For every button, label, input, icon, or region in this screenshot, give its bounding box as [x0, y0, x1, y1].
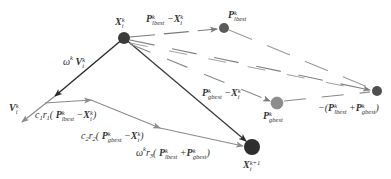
- label-v: V: [75, 56, 82, 67]
- dashed-plbest-to-negsum: [229, 30, 370, 88]
- label-sub: i: [180, 20, 183, 26]
- x-next-node: [244, 139, 260, 155]
- label-open: (: [96, 130, 99, 141]
- label-open: (: [50, 109, 53, 120]
- label-close: ): [93, 109, 96, 120]
- label-close: ): [206, 147, 209, 158]
- label-omega: ω: [63, 56, 70, 67]
- dashed-to-pgbest: [130, 44, 270, 101]
- label-sub: gbest: [108, 137, 122, 143]
- label-p-gbest: Pkgbest: [263, 111, 283, 123]
- dashed-to-plbest: [130, 29, 217, 37]
- label-neg-sum: −(Pklbest +Pkgbest): [318, 103, 379, 115]
- label-sub: gbest: [269, 117, 283, 123]
- dashed-x-to-negsum-1: [130, 40, 370, 90]
- label-omega: ω: [136, 147, 143, 158]
- label-x-current: Xki: [115, 17, 125, 29]
- label-sub: lbest: [62, 116, 74, 122]
- label-v-current: Vki: [9, 103, 19, 115]
- label-sub: lbest: [165, 154, 177, 160]
- label-sub: i: [16, 109, 19, 115]
- label-sub: gbest: [362, 109, 376, 115]
- x-current-node: [118, 32, 130, 44]
- label-sub: i: [122, 23, 125, 29]
- label-sub: gbest: [193, 154, 207, 160]
- label-op: −: [167, 13, 174, 24]
- third-component-arrow: [160, 128, 243, 146]
- label-pgbest-minus-x: Pkgbest −Xki: [202, 88, 241, 100]
- label-sub: lbest: [152, 20, 164, 26]
- label-base: X: [243, 159, 250, 170]
- label-x: X: [83, 109, 90, 120]
- label-inertia: ωk Vki: [63, 55, 85, 69]
- label-third: ωkr3( Pklbest +Pkgbest): [136, 146, 210, 160]
- label-close: ): [140, 130, 143, 141]
- label-x-next: Xk+1i: [243, 160, 260, 172]
- p-gbest-node: [271, 97, 283, 109]
- label-x: X: [231, 87, 238, 98]
- label-social: c2r2( Pkgbest −Xki): [81, 131, 144, 143]
- label-sub: gbest: [208, 94, 222, 100]
- label-sub: i: [250, 166, 261, 172]
- label-cognitive: c1r1( Pklbest −Xki): [35, 110, 96, 122]
- neg-sum-node: [372, 86, 382, 96]
- label-x: X: [131, 130, 138, 141]
- cognitive-component-arrow: [45, 100, 91, 103]
- label-base: V: [9, 102, 16, 113]
- label-open: (: [153, 147, 156, 158]
- label-sub: i: [82, 63, 85, 69]
- dashed-pgbest-to-negsum: [284, 92, 370, 101]
- label-sup: k: [70, 54, 73, 61]
- label-sub: i: [238, 94, 241, 100]
- label-sub: lbest: [334, 109, 346, 115]
- label-op: +: [349, 102, 356, 113]
- label-sub: lbest: [234, 16, 246, 22]
- label-op: +: [180, 147, 187, 158]
- label-prefix: −(: [318, 102, 328, 113]
- label-base: X: [115, 16, 122, 27]
- label-op: −: [124, 130, 131, 141]
- label-x: X: [174, 13, 181, 24]
- label-plbest-minus-x: Pklbest −Xki: [146, 14, 183, 26]
- label-close: ): [376, 102, 379, 113]
- dashed-x-to-negsum-2: [130, 43, 369, 91]
- p-lbest-node: [219, 23, 229, 33]
- label-p-lbest: Pklbest: [228, 10, 246, 22]
- social-component-arrow: [91, 100, 160, 128]
